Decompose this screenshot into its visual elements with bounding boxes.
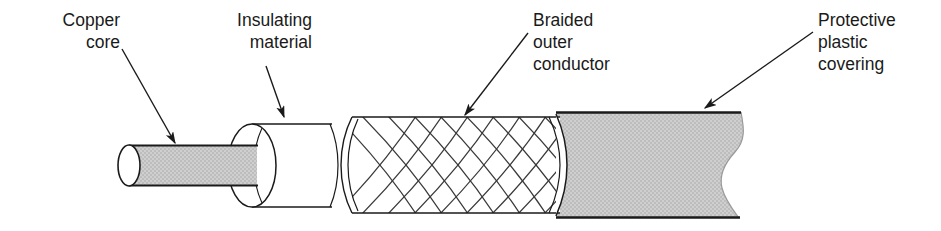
label-braided-outer-conductor-line1: Braided [533,10,593,30]
copper-core-shape [118,145,258,186]
leader-protective-plastic-covering [705,32,813,108]
leader-copper-core [122,49,175,143]
label-protective-plastic-covering-line3: covering [818,54,884,74]
label-copper-core-line2: core [86,32,120,52]
label-insulating-material-line2: material [250,32,312,52]
label-insulating-material-line1: Insulating [237,10,312,30]
label-protective-plastic-covering-line2: plastic [818,32,868,52]
label-protective-plastic-covering-line1: Protective [818,10,896,30]
label-braided-outer-conductor-line2: outer [533,32,573,52]
protective-plastic-covering-shape [556,112,743,218]
coax-cable-figure: Copper core Insulating material Braided … [0,0,941,231]
labels: Copper core Insulating material Braided … [63,10,896,74]
leader-braided-outer-conductor [465,33,528,115]
label-copper-core-line1: Copper [63,10,121,30]
label-braided-outer-conductor-line3: conductor [533,54,610,74]
leader-insulating-material [266,66,284,117]
coax-cable-illustration: Copper core Insulating material Braided … [0,0,941,231]
